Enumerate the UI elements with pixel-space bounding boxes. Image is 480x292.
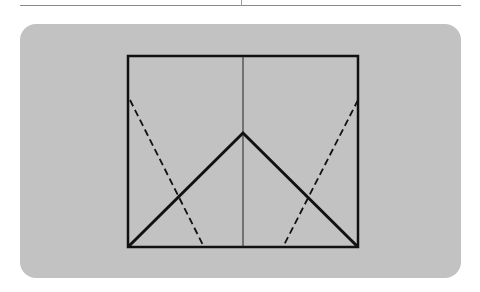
fold-diagram [0,0,480,292]
dashed-right-line [283,100,358,247]
dashed-left-line [130,100,204,247]
